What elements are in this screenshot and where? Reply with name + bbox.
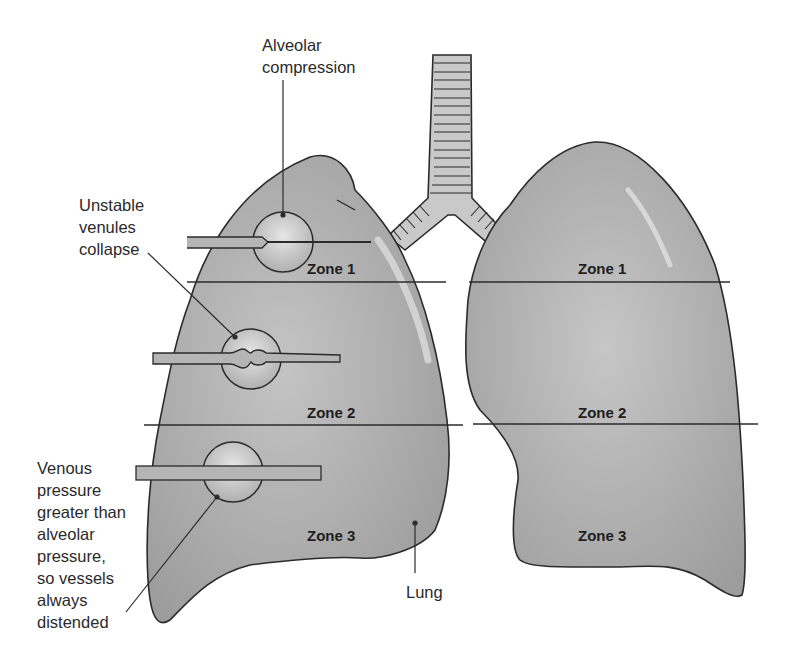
lung-label: Lung <box>406 581 443 603</box>
venous-pressure-label: Venous pressure greater than alveolar pr… <box>37 457 126 633</box>
left-zone-2-label: Zone 2 <box>307 404 355 421</box>
trachea <box>388 55 510 252</box>
left-zone-3-label: Zone 3 <box>307 527 355 544</box>
right-zone-1-label: Zone 1 <box>578 260 626 277</box>
unstable-venules-label: Unstable venules collapse <box>79 194 144 260</box>
left-zone-1-label: Zone 1 <box>307 260 355 277</box>
right-zone-3-label: Zone 3 <box>578 527 626 544</box>
right-zone-2-label: Zone 2 <box>578 404 626 421</box>
alveolar-compression-label: Alveolar compression <box>262 34 356 78</box>
